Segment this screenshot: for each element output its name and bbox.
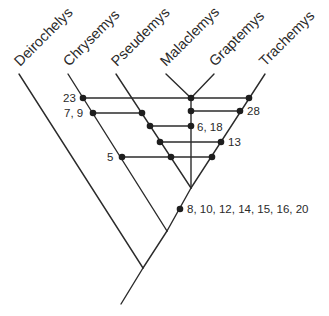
dot xyxy=(218,139,225,146)
dot xyxy=(119,154,126,161)
char-label-7-9: 7, 9 xyxy=(64,107,83,119)
branch-malaclemys xyxy=(166,74,191,98)
char-label-13: 13 xyxy=(228,136,241,148)
char-label-8-20: 8, 10, 12, 14, 15, 16, 20 xyxy=(187,203,309,215)
taxon-label-trachemys: Trachemys xyxy=(256,7,318,69)
dot xyxy=(157,139,164,146)
branch-deirochelys xyxy=(19,74,143,268)
dot xyxy=(246,95,253,102)
dot xyxy=(188,123,195,130)
dot xyxy=(237,108,244,115)
char-label-28: 28 xyxy=(247,105,260,117)
dot xyxy=(168,154,175,161)
char-label-23: 23 xyxy=(63,92,76,104)
branch-pseudemys xyxy=(116,74,191,188)
dot xyxy=(139,110,146,117)
branches xyxy=(19,74,265,304)
char-label-6-18: 6, 18 xyxy=(197,121,223,133)
branch-root xyxy=(121,268,143,304)
dot xyxy=(188,108,195,115)
cladogram-figure: Deirochelys Chrysemys Pseudemys Malaclem… xyxy=(0,0,329,316)
character-lines xyxy=(83,98,249,157)
dot xyxy=(209,154,216,161)
branch-stem-1 xyxy=(143,231,167,268)
taxon-labels: Deirochelys Chrysemys Pseudemys Malaclem… xyxy=(11,4,318,69)
dot xyxy=(177,206,184,213)
dot xyxy=(147,123,154,130)
dot xyxy=(188,95,195,102)
branch-graptemys xyxy=(191,74,214,98)
char-label-5: 5 xyxy=(107,151,113,163)
dot xyxy=(80,95,87,102)
dot xyxy=(90,110,97,117)
